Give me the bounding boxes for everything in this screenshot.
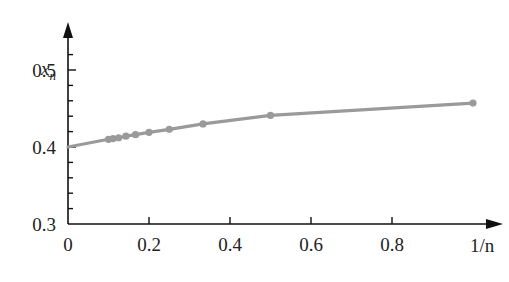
x-tick-label: 0.4 <box>218 234 242 255</box>
data-point <box>122 133 129 140</box>
y-tick-label: 0.3 <box>32 214 56 235</box>
x-tick-label: 0.8 <box>380 234 404 255</box>
y-axis-arrow-icon <box>63 22 73 38</box>
data-point <box>166 126 173 133</box>
x-tick-label: 0 <box>63 234 73 255</box>
data-point <box>469 100 476 107</box>
x-axis-label: 1/n <box>470 235 495 256</box>
data-point <box>132 131 139 138</box>
series-line <box>68 103 473 147</box>
data-point <box>145 129 152 136</box>
data-point <box>199 120 206 127</box>
data-point <box>267 112 274 119</box>
x-tick-label: 0.2 <box>137 234 161 255</box>
x-tick-label: 0.6 <box>299 234 323 255</box>
y-tick-label: 0.4 <box>32 137 56 158</box>
data-point <box>115 134 122 141</box>
tick-labels: 00.20.40.60.80.30.40.5 <box>32 60 404 255</box>
x-axis-arrow-icon <box>486 219 503 229</box>
data-series <box>68 100 477 147</box>
y-axis-label-subscript: n <box>49 68 56 83</box>
chart: 00.20.40.60.80.30.40.5 xn 1/n <box>0 0 509 282</box>
axes <box>63 22 503 229</box>
